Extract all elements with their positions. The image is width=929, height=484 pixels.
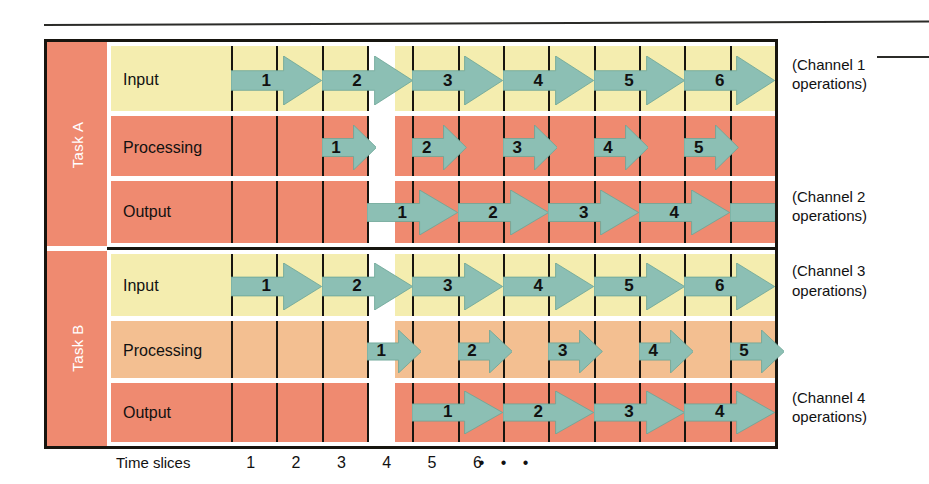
arrow-task-a-input-6: 6 bbox=[684, 56, 775, 105]
caption-line: operations) bbox=[792, 74, 867, 93]
gridline bbox=[775, 46, 777, 114]
task-divider bbox=[107, 247, 775, 250]
top-divider-rule bbox=[44, 21, 929, 26]
axis-continuation-dots: • • • bbox=[479, 454, 535, 472]
arrow-task-a-input-5: 5 bbox=[594, 56, 685, 105]
caption-line: (Channel 2 bbox=[792, 187, 867, 206]
arrow-task-a-output-3: 3 bbox=[548, 190, 639, 235]
gridline bbox=[775, 383, 777, 442]
task-divider-spine-gap bbox=[47, 246, 107, 251]
arrow-sequence-number: 3 bbox=[579, 203, 588, 223]
caption-line: (Channel 1 bbox=[792, 55, 867, 74]
arrow-sequence-number: 2 bbox=[467, 341, 476, 361]
stage-label-task-a-output: Output bbox=[123, 203, 171, 221]
arrow-sequence-number: 2 bbox=[352, 276, 361, 296]
arrow-task-b-input-5: 5 bbox=[594, 263, 685, 310]
arrow-sequence-number: 4 bbox=[603, 138, 612, 158]
time-slice-tick-2: 2 bbox=[285, 454, 307, 472]
channel-caption-task-a-output: (Channel 2operations) bbox=[792, 187, 867, 225]
time-slice-tick-4: 4 bbox=[376, 454, 398, 472]
stage-label-task-b-processing: Processing bbox=[123, 342, 202, 360]
caption-line: operations) bbox=[792, 407, 867, 426]
arrow-sequence-number: 3 bbox=[443, 71, 452, 91]
channel-caption-task-a-input: (Channel 1operations) bbox=[792, 55, 867, 93]
arrow-sequence-number: 4 bbox=[534, 276, 543, 296]
arrow-sequence-number: 5 bbox=[739, 341, 748, 361]
arrow-task-a-output-1: 1 bbox=[367, 190, 458, 235]
arrow-sequence-number: 6 bbox=[715, 71, 724, 91]
channel-caption-task-b-input: (Channel 3operations) bbox=[792, 261, 867, 299]
stage-label-task-a-processing: Processing bbox=[123, 139, 202, 157]
arrow-task-a-processing-2: 2 bbox=[412, 125, 466, 170]
arrow-sequence-number: 2 bbox=[352, 71, 361, 91]
pipeline-timing-diagram: Task AInput123456Processing12345Output12… bbox=[44, 39, 778, 449]
diagram-body: Task AInput123456Processing12345Output12… bbox=[47, 42, 775, 446]
arrow-sequence-number: 5 bbox=[624, 71, 633, 91]
arrow-task-a-processing-3: 3 bbox=[503, 125, 557, 170]
arrow-task-b-processing-5: 5 bbox=[730, 330, 784, 373]
spine-gutter bbox=[107, 250, 111, 446]
arrow-task-a-processing-4: 4 bbox=[594, 125, 648, 170]
arrow-sequence-number: 3 bbox=[443, 276, 452, 296]
stage-label-task-b-input: Input bbox=[123, 277, 159, 295]
arrow-task-a-input-1: 1 bbox=[231, 56, 322, 105]
stage-row-task-b-input: Input123456 bbox=[111, 254, 775, 319]
arrow-task-b-output-1: 1 bbox=[412, 391, 503, 434]
arrow-task-b-processing-4: 4 bbox=[639, 330, 693, 373]
gridline bbox=[775, 116, 777, 179]
arrow-task-b-input-2: 2 bbox=[322, 263, 413, 310]
spine-gutter bbox=[107, 42, 111, 247]
row-separator bbox=[107, 378, 775, 383]
channel-caption-task-b-output: (Channel 4operations) bbox=[792, 388, 867, 426]
arrow-sequence-number: 6 bbox=[715, 276, 724, 296]
arrow-task-b-input-3: 3 bbox=[412, 263, 503, 310]
arrow-task-b-input-6: 6 bbox=[684, 263, 775, 310]
caption-line: (Channel 4 bbox=[792, 388, 867, 407]
caption-line: (Channel 3 bbox=[792, 261, 867, 280]
arrow-task-b-input-4: 4 bbox=[503, 263, 594, 310]
arrow-task-a-processing-5: 5 bbox=[684, 125, 738, 170]
arrow-sequence-number: 4 bbox=[670, 203, 679, 223]
stage-label-task-b-output: Output bbox=[123, 404, 171, 422]
time-axis: Time slices 123456• • • bbox=[44, 452, 804, 480]
time-axis-title: Time slices bbox=[116, 454, 190, 471]
task-label: Task A bbox=[69, 121, 86, 168]
arrow-sequence-number: 1 bbox=[262, 71, 271, 91]
arrow-sequence-number: 1 bbox=[377, 341, 386, 361]
gridline bbox=[775, 254, 777, 319]
arrow-sequence-number: 3 bbox=[513, 138, 522, 158]
arrow-sequence-number: 1 bbox=[262, 276, 271, 296]
arrow-task-a-input-2: 2 bbox=[322, 56, 413, 105]
time-slice-tick-5: 5 bbox=[421, 454, 443, 472]
arrow-task-a-input-4: 4 bbox=[503, 56, 594, 105]
gridline bbox=[775, 181, 777, 243]
stage-row-task-a-processing: Processing12345 bbox=[111, 116, 775, 179]
arrow-task-a-output-tail bbox=[730, 190, 775, 235]
arrow-task-b-output-3: 3 bbox=[594, 391, 685, 434]
right-divider-rule bbox=[877, 56, 929, 58]
arrow-sequence-number: 4 bbox=[649, 341, 658, 361]
caption-line: operations) bbox=[792, 206, 867, 225]
arrow-task-b-input-1: 1 bbox=[231, 263, 322, 310]
arrow-task-b-output-4: 4 bbox=[684, 391, 775, 434]
arrow-sequence-number: 3 bbox=[558, 341, 567, 361]
arrow-task-b-processing-3: 3 bbox=[548, 330, 602, 373]
time-slice-tick-3: 3 bbox=[330, 454, 352, 472]
arrow-sequence-number: 1 bbox=[331, 138, 340, 158]
time-slice-tick-1: 1 bbox=[240, 454, 262, 472]
arrow-task-a-processing-1: 1 bbox=[322, 125, 376, 170]
arrow-task-a-input-3: 3 bbox=[412, 56, 503, 105]
arrow-sequence-number: 4 bbox=[715, 402, 724, 422]
arrow-sequence-number: 1 bbox=[443, 402, 452, 422]
stage-row-task-b-processing: Processing12345 bbox=[111, 321, 775, 381]
caption-line: operations) bbox=[792, 281, 867, 300]
arrow-sequence-number: 5 bbox=[624, 276, 633, 296]
arrow-sequence-number: 3 bbox=[624, 402, 633, 422]
arrow-sequence-number: 4 bbox=[534, 71, 543, 91]
arrow-sequence-number: 1 bbox=[398, 203, 407, 223]
task-spine-task-b: Task B bbox=[47, 250, 107, 446]
arrow-task-b-processing-2: 2 bbox=[458, 330, 512, 373]
stage-row-task-a-input: Input123456 bbox=[111, 46, 775, 114]
arrow-sequence-number: 2 bbox=[488, 203, 497, 223]
arrow-sequence-number: 5 bbox=[694, 138, 703, 158]
